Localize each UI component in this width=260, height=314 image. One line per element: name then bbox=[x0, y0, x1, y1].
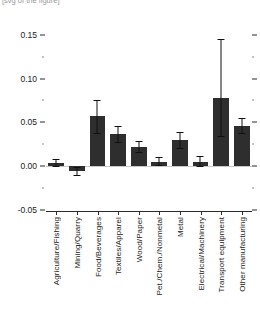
x-axis-category-label: Wood/Paper bbox=[135, 217, 144, 262]
x-axis-category-label: Food/Beverages bbox=[94, 217, 103, 277]
error-bar-cap-lower bbox=[156, 165, 163, 166]
error-bar-line bbox=[241, 118, 242, 133]
error-bar-cap-lower bbox=[53, 166, 60, 167]
y-tick-label: 0.10 bbox=[20, 74, 37, 84]
error-bar-line bbox=[221, 39, 222, 135]
error-bar-cap-upper bbox=[53, 159, 60, 160]
y-tick-label: -0.05 bbox=[18, 205, 37, 215]
plot-area bbox=[46, 26, 252, 210]
error-bar-line bbox=[76, 167, 77, 175]
y-tick-minor-right bbox=[252, 100, 254, 101]
y-tick-minor-right bbox=[252, 188, 254, 189]
y-axis: -0.050.000.050.100.15 bbox=[0, 26, 46, 210]
error-bar-line bbox=[118, 126, 119, 142]
y-tick-minor-right bbox=[252, 56, 254, 57]
error-bar-line bbox=[97, 100, 98, 132]
error-bar-cap-lower bbox=[94, 133, 101, 134]
y-tick-label: 0.00 bbox=[20, 161, 37, 171]
x-axis-category-label: Mining/Quarry bbox=[73, 217, 82, 269]
y-tick-major bbox=[40, 122, 45, 123]
x-tick bbox=[221, 211, 222, 215]
bar-chart-figure: [svg of the figure] -0.050.000.050.100.1… bbox=[0, 0, 260, 314]
y-tick-label: 0.15 bbox=[20, 30, 37, 40]
error-bar-cap-upper bbox=[135, 141, 142, 142]
x-tick bbox=[180, 211, 181, 215]
bar-group bbox=[46, 26, 67, 210]
error-bar-line bbox=[179, 132, 180, 148]
y-tick-major-right bbox=[252, 78, 257, 79]
bar-group bbox=[211, 26, 232, 210]
error-bar-cap-upper bbox=[156, 157, 163, 158]
error-bar-cap-upper bbox=[94, 100, 101, 101]
x-tick bbox=[98, 211, 99, 215]
y-axis-right-ticks bbox=[252, 26, 260, 210]
x-axis-category-label: Agriculture/Fishing bbox=[52, 217, 61, 285]
x-axis-category-label: Other manufacturing bbox=[238, 217, 247, 292]
y-tick-minor bbox=[42, 56, 44, 57]
error-bar-cap-lower bbox=[238, 133, 245, 134]
error-bar-cap-lower bbox=[197, 166, 204, 167]
x-axis-category-label: Pet./Chem./Nonmetal bbox=[155, 217, 164, 295]
x-axis-category-label: Transport equipment bbox=[217, 217, 226, 292]
error-bar-cap-lower bbox=[218, 136, 225, 137]
error-bar-cap-upper bbox=[73, 167, 80, 168]
error-bar-cap-upper bbox=[238, 118, 245, 119]
error-bar-line bbox=[56, 159, 57, 166]
y-tick-major bbox=[40, 166, 45, 167]
error-bar-cap-upper bbox=[218, 39, 225, 40]
bar-group bbox=[67, 26, 88, 210]
x-tick bbox=[201, 211, 202, 215]
y-tick-label: 0.05 bbox=[20, 117, 37, 127]
y-tick-minor bbox=[42, 144, 44, 145]
y-tick-major-right bbox=[252, 122, 257, 123]
x-axis-labels: Agriculture/FishingMining/QuarryFood/Bev… bbox=[46, 217, 252, 314]
x-tick bbox=[139, 211, 140, 215]
error-bar-cap-lower bbox=[115, 142, 122, 143]
bar-group bbox=[128, 26, 149, 210]
y-tick-minor bbox=[42, 100, 44, 101]
bar-group bbox=[108, 26, 129, 210]
bar-group bbox=[87, 26, 108, 210]
figure-supertitle: [svg of the figure] bbox=[2, 0, 142, 5]
error-bar-line bbox=[200, 156, 201, 167]
error-bar-cap-upper bbox=[115, 126, 122, 127]
x-axis-category-label: Electrical/Machinery bbox=[197, 217, 206, 291]
x-tick bbox=[118, 211, 119, 215]
y-tick-minor-right bbox=[252, 144, 254, 145]
x-axis-category-label: Textiles/Apparel bbox=[114, 217, 123, 275]
y-tick-minor bbox=[42, 188, 44, 189]
y-tick-major-right bbox=[252, 34, 257, 35]
y-tick-major bbox=[40, 210, 45, 211]
error-bar-cap-lower bbox=[176, 148, 183, 149]
x-axis-category-label: Metal bbox=[176, 217, 185, 237]
bar-group bbox=[190, 26, 211, 210]
x-tick bbox=[56, 211, 57, 215]
error-bar-cap-lower bbox=[135, 152, 142, 153]
y-tick-major bbox=[40, 78, 45, 79]
x-tick bbox=[159, 211, 160, 215]
x-tick bbox=[77, 211, 78, 215]
bar-group bbox=[231, 26, 252, 210]
bar-group bbox=[170, 26, 191, 210]
error-bar-cap-upper bbox=[176, 132, 183, 133]
error-bar-cap-lower bbox=[73, 175, 80, 176]
error-bar-line bbox=[159, 157, 160, 165]
y-tick-major-right bbox=[252, 210, 257, 211]
bar-group bbox=[149, 26, 170, 210]
x-tick bbox=[242, 211, 243, 215]
error-bar-cap-upper bbox=[197, 156, 204, 157]
error-bar-line bbox=[138, 141, 139, 152]
y-tick-major bbox=[40, 34, 45, 35]
y-tick-major-right bbox=[252, 166, 257, 167]
